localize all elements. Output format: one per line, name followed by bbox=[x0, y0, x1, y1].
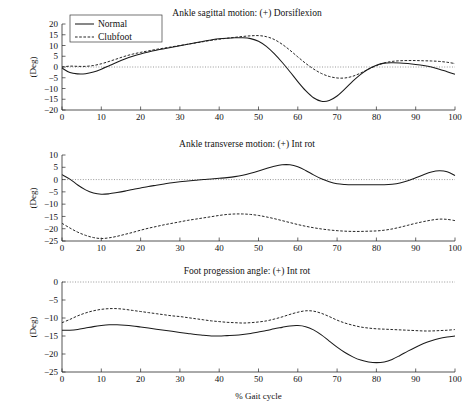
y-tick-label-1: −5 bbox=[48, 187, 58, 197]
series-line-normal-1 bbox=[62, 165, 455, 195]
y-tick-label-1: 5 bbox=[54, 162, 59, 172]
chart-panel-ankle-sagittal: Ankle sagittal motion: (+) Dorsiflexion2… bbox=[0, 0, 474, 133]
chart-svg-1: Ankle transverse motion: (+) Int rot1050… bbox=[0, 133, 474, 266]
chart-title-1: Ankle transverse motion: (+) Int rot bbox=[179, 139, 315, 150]
x-tick-label-0: 90 bbox=[411, 112, 421, 122]
x-tick-label-2: 90 bbox=[411, 374, 421, 384]
x-tick-label-2: 30 bbox=[175, 374, 185, 384]
y-tick-label-1: 0 bbox=[54, 175, 59, 185]
x-tick-label-0: 70 bbox=[333, 112, 343, 122]
y-tick-label-0: 10 bbox=[49, 41, 59, 51]
y-tick-label-1: −25 bbox=[44, 236, 59, 246]
y-tick-label-1: −10 bbox=[44, 199, 59, 209]
x-tick-label-0: 40 bbox=[215, 112, 225, 122]
y-tick-label-0: 20 bbox=[49, 19, 59, 29]
x-tick-label-1: 30 bbox=[175, 243, 185, 253]
x-tick-label-1: 50 bbox=[254, 243, 264, 253]
y-axis-title-2: (Deg) bbox=[28, 317, 38, 338]
x-tick-label-0: 10 bbox=[97, 112, 107, 122]
y-tick-label-0: −15 bbox=[44, 94, 59, 104]
x-tick-label-2: 60 bbox=[293, 374, 303, 384]
y-tick-label-0: −5 bbox=[48, 73, 58, 83]
chart-title-0: Ankle sagittal motion: (+) Dorsiflexion bbox=[172, 8, 322, 19]
legend-label-normal: Normal bbox=[98, 19, 127, 29]
x-tick-label-0: 60 bbox=[293, 112, 303, 122]
x-tick-label-1: 40 bbox=[215, 243, 225, 253]
y-axis-title-1: (Deg) bbox=[28, 188, 38, 209]
x-tick-label-2: 80 bbox=[372, 374, 382, 384]
x-tick-label-1: 0 bbox=[60, 243, 65, 253]
y-tick-label-0: −10 bbox=[44, 84, 59, 94]
x-tick-label-1: 20 bbox=[136, 243, 146, 253]
x-tick-label-1: 80 bbox=[372, 243, 382, 253]
y-tick-label-2: −5 bbox=[48, 295, 58, 305]
x-tick-label-2: 0 bbox=[60, 374, 65, 384]
x-tick-label-1: 10 bbox=[97, 243, 107, 253]
x-tick-label-0: 80 bbox=[372, 112, 382, 122]
chart-panel-ankle-transverse: Ankle transverse motion: (+) Int rot1050… bbox=[0, 133, 474, 266]
x-tick-label-1: 70 bbox=[333, 243, 343, 253]
x-tick-label-2: 40 bbox=[215, 374, 225, 384]
series-line-normal-0 bbox=[62, 38, 455, 102]
y-tick-label-1: 10 bbox=[49, 150, 59, 160]
y-tick-label-0: 0 bbox=[54, 62, 59, 72]
y-tick-label-0: 5 bbox=[54, 51, 59, 61]
x-tick-label-0: 50 bbox=[254, 112, 264, 122]
x-tick-label-2: 20 bbox=[136, 374, 146, 384]
y-tick-label-0: −20 bbox=[44, 105, 59, 115]
figure-root: Ankle sagittal motion: (+) Dorsiflexion2… bbox=[0, 0, 474, 408]
x-tick-label-0: 30 bbox=[175, 112, 185, 122]
legend-label-clubfoot: Clubfoot bbox=[98, 32, 132, 42]
x-tick-label-1: 100 bbox=[448, 243, 462, 253]
x-tick-label-2: 10 bbox=[97, 374, 107, 384]
x-tick-label-0: 0 bbox=[60, 112, 65, 122]
chart-svg-0: Ankle sagittal motion: (+) Dorsiflexion2… bbox=[0, 0, 474, 133]
y-tick-label-2: −10 bbox=[44, 313, 59, 323]
x-tick-label-0: 100 bbox=[448, 112, 462, 122]
x-axis-title: % Gait cycle bbox=[235, 391, 281, 401]
y-tick-label-1: −20 bbox=[44, 224, 59, 234]
x-tick-label-2: 100 bbox=[448, 374, 462, 384]
y-tick-label-2: −20 bbox=[44, 349, 59, 359]
y-tick-label-2: −25 bbox=[44, 367, 59, 377]
chart-panel-foot-progression: Foot progession angle: (+) Int rot0−5−10… bbox=[0, 266, 474, 408]
x-tick-label-1: 90 bbox=[411, 243, 421, 253]
chart-title-2: Foot progession angle: (+) Int rot bbox=[184, 266, 311, 277]
series-line-clubfoot-2 bbox=[62, 309, 455, 331]
series-line-normal-2 bbox=[62, 325, 455, 363]
y-axis-title-0: (Deg) bbox=[28, 57, 38, 78]
x-tick-label-1: 60 bbox=[293, 243, 303, 253]
y-tick-label-1: −15 bbox=[44, 212, 59, 222]
y-tick-label-2: 0 bbox=[54, 277, 59, 287]
y-tick-label-2: −15 bbox=[44, 331, 59, 341]
x-tick-label-0: 20 bbox=[136, 112, 146, 122]
x-tick-label-2: 50 bbox=[254, 374, 264, 384]
series-line-clubfoot-1 bbox=[62, 214, 455, 239]
y-tick-label-0: 15 bbox=[49, 30, 59, 40]
x-tick-label-2: 70 bbox=[333, 374, 343, 384]
chart-svg-2: Foot progession angle: (+) Int rot0−5−10… bbox=[0, 266, 474, 408]
